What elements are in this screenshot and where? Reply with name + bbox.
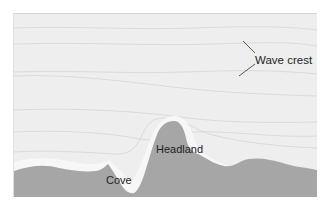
cove-label: Cove	[106, 175, 132, 186]
headland-label: Headland	[156, 144, 203, 155]
wave-crest-label: Wave crest	[255, 55, 312, 67]
diagram-canvas	[14, 14, 317, 197]
diagram-frame: Wave crest Headland Cove	[13, 13, 317, 197]
